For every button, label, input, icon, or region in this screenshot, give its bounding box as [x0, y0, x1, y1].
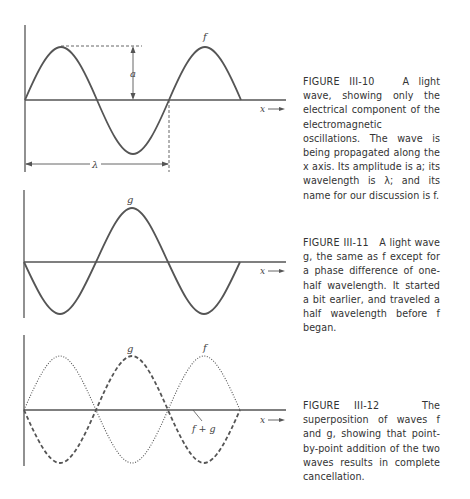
amplitude-arrow-head-bottom: [131, 93, 136, 100]
figure-number: FIGURE III-11: [303, 237, 369, 248]
figure-III-10-plot: [25, 25, 286, 172]
label-x-axis: x: [260, 266, 265, 276]
label-g: g: [127, 343, 133, 354]
label-g: g: [127, 194, 133, 205]
label-f: f: [202, 342, 209, 353]
caption-figure-III-12: FIGURE III-12 The superposition of waves…: [303, 399, 440, 484]
label-wavelength: λ: [91, 159, 98, 170]
caption-figure-III-11: FIGURE III-11 A light wave g, the same a…: [303, 236, 440, 335]
label-f-plus-g: f + g: [191, 423, 216, 434]
caption-text: A light wave g, the same as f except for…: [303, 237, 440, 333]
sum-leader-line: [193, 410, 202, 421]
wave-g: [24, 208, 240, 314]
label-x-axis: x: [260, 104, 265, 114]
figure-number: FIGURE III-10: [303, 76, 375, 87]
figure-III-11-plot: [24, 190, 286, 318]
figure-number: FIGURE III-12: [303, 400, 379, 411]
wavelength-arrow-head-right: [162, 162, 169, 167]
x-direction-arrow-head: [279, 269, 285, 273]
caption-text: The superposition of waves f and g, show…: [303, 400, 440, 482]
label-f: f: [202, 31, 209, 42]
caption-text: A light wave, showing only the electrica…: [303, 76, 440, 201]
caption-figure-III-10: FIGURE III-10 A light wave, showing only…: [303, 75, 440, 203]
x-direction-arrow-head: [279, 107, 285, 111]
x-direction-arrow-head: [279, 418, 285, 422]
figure-III-12-plot: [24, 335, 286, 466]
wavelength-arrow-head-left: [25, 162, 32, 167]
label-x-axis: x: [260, 415, 265, 425]
amplitude-arrow-head-top: [131, 46, 136, 53]
label-amplitude-a: a: [130, 68, 136, 79]
